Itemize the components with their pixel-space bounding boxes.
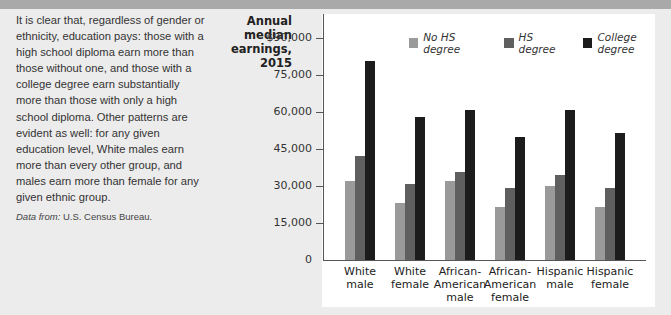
y-tick-mark [316,223,323,224]
y-tick-label: 60,000 [252,105,312,118]
y-tick-label: 30,000 [252,179,312,192]
bar [605,188,615,260]
bar [455,172,465,260]
bar [415,117,425,260]
y-axis [323,14,324,261]
bar [365,61,375,260]
y-tick-label: 75,000 [252,68,312,81]
bar [405,184,415,260]
bar [445,181,455,260]
bar [595,207,605,260]
bar [345,181,355,260]
y-tick-mark [316,75,323,76]
y-tick-label: 0 [252,253,312,266]
bar [615,133,625,260]
bar [355,156,365,260]
y-tick-label: $90,000 [252,31,312,44]
y-tick-label: 15,000 [252,216,312,229]
y-tick-mark [316,186,323,187]
bar [555,175,565,260]
bar [505,188,515,260]
y-tick-mark [316,112,323,113]
bar [515,137,525,260]
bar-chart: 015,00030,00045,00060,00075,000$90,000Wh… [0,0,671,315]
y-tick-mark [316,38,323,39]
y-tick-label: 45,000 [252,142,312,155]
bar [465,110,475,260]
bar [495,207,505,260]
bar [545,186,555,260]
bar [395,203,405,260]
x-axis [323,260,646,261]
bar [565,110,575,260]
x-category-label: Hispanicfemale [580,265,640,291]
y-tick-mark [316,149,323,150]
